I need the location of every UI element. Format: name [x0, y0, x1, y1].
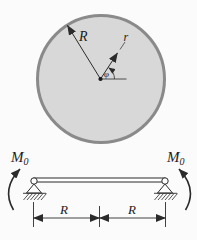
disk-center-dot — [98, 77, 102, 81]
dim-label-left: R — [59, 202, 68, 217]
inner-radius-label: r — [124, 30, 129, 44]
right-support-pin — [162, 178, 168, 184]
angle-label: φ — [104, 69, 109, 79]
left-support-pin — [31, 178, 37, 184]
beam-body — [34, 178, 165, 182]
dim-label-right: R — [127, 202, 136, 217]
disk-and-beam-diagram: R r φ M0 M0 R R — [0, 0, 197, 240]
outer-radius-label: R — [78, 29, 88, 44]
mechanics-figure: R r φ M0 M0 R R — [0, 0, 197, 240]
